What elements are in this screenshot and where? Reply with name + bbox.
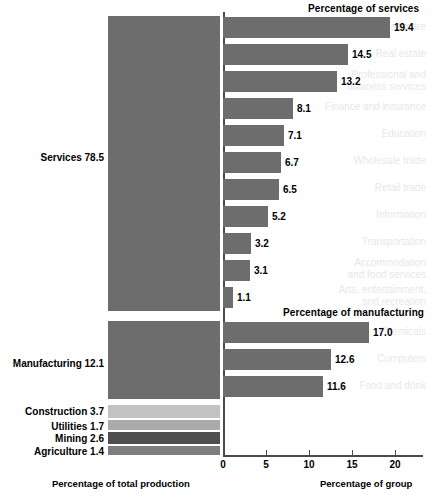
services-label-panel [108, 16, 220, 311]
x-tick-label-10: 10 [297, 459, 321, 470]
bar-value-transportation: 3.2 [255, 233, 269, 254]
bar-education [223, 125, 284, 146]
x-tick-15 [352, 450, 353, 455]
mining-total-label: Mining 2.6 [0, 433, 104, 444]
bar-value-food-and-drink: 11.6 [327, 376, 346, 397]
x-axis-line [223, 455, 423, 457]
plot-area: 0 5 10 15 20 19.4 14.5 13.2 8.1 7.1 6.7 … [223, 0, 432, 497]
agriculture-total-label: Agriculture 1.4 [0, 446, 104, 457]
x-tick-label-5: 5 [254, 459, 278, 470]
utilities-bar [108, 420, 220, 430]
x-tick-0 [223, 450, 224, 455]
bar-accommodation-and-food-services [223, 260, 250, 281]
x-tick-label-20: 20 [383, 459, 407, 470]
bar-retail-trade [223, 179, 279, 200]
x-tick-label-15: 15 [340, 459, 364, 470]
bar-real-estate [223, 44, 348, 65]
mining-bar [108, 432, 220, 444]
agriculture-bar [108, 446, 220, 455]
bar-value-real-estate: 14.5 [352, 44, 371, 65]
manufacturing-label-panel [108, 321, 220, 399]
bar-arts-entertainment-and-recreation [223, 287, 233, 308]
x-axis-title-left: Percentage of total production [52, 478, 190, 489]
construction-bar [108, 405, 220, 418]
production-breakdown-chart: Percentage of services Percentage of man… [0, 0, 432, 497]
bar-value-wholesale-trade: 6.7 [285, 152, 299, 173]
bar-value-information: 5.2 [272, 206, 286, 227]
x-tick-label-0: 0 [211, 459, 235, 470]
construction-total-label: Construction 3.7 [0, 406, 104, 417]
bar-transportation [223, 233, 251, 254]
bar-chemicals [223, 322, 369, 343]
bar-value-chemicals: 17.0 [373, 322, 392, 343]
bar-value-retail-trade: 6.5 [283, 179, 297, 200]
services-group-total-label: Services 78.5 [0, 152, 104, 163]
bar-professional-and-business-services [223, 71, 337, 92]
bar-information [223, 206, 268, 227]
x-tick-20 [395, 450, 396, 455]
utilities-total-label: Utilities 1.7 [0, 421, 104, 432]
bar-value-education: 7.1 [288, 125, 302, 146]
bar-value-healthcare: 19.4 [394, 17, 413, 38]
bar-value-arts-entertainment-and-recreation: 1.1 [237, 287, 251, 308]
bar-value-professional-and-business-services: 13.2 [341, 71, 360, 92]
bar-value-accommodation-and-food-services: 3.1 [254, 260, 268, 281]
x-tick-5 [266, 450, 267, 455]
bar-finance-and-insurance [223, 98, 293, 119]
x-tick-10 [309, 450, 310, 455]
bar-value-finance-and-insurance: 8.1 [297, 98, 311, 119]
x-axis-title-right: Percentage of group [320, 478, 412, 489]
bar-value-computers: 12.6 [335, 349, 354, 370]
manufacturing-group-total-label: Manufacturing 12.1 [0, 358, 104, 369]
bar-healthcare [223, 17, 390, 38]
bar-food-and-drink [223, 376, 323, 397]
bar-computers [223, 349, 331, 370]
bar-wholesale-trade [223, 152, 281, 173]
